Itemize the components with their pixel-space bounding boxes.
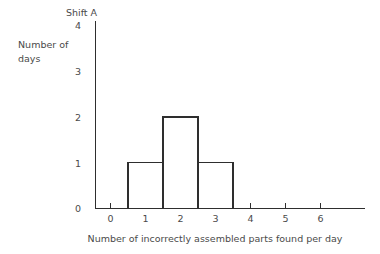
histogram-chart: Shift A Number of days 4 3 2 1 0 0 1 2 3… <box>0 0 380 254</box>
x-tick-label-4: 4 <box>247 213 253 224</box>
x-axis-label: Number of incorrectly assembled parts fo… <box>88 233 343 244</box>
x-tick-label-6: 6 <box>317 213 323 224</box>
chart-title: Shift A <box>66 7 98 18</box>
y-axis-label-line1: Number of <box>18 39 69 50</box>
histogram-bar-3 <box>198 163 233 209</box>
chart-canvas: Shift A Number of days 4 3 2 1 0 0 1 2 3… <box>0 0 380 254</box>
x-tick-label-5: 5 <box>282 213 288 224</box>
y-tick-label-2: 2 <box>75 112 81 123</box>
y-axis-label-line2: days <box>18 53 40 64</box>
x-tick-label-2: 2 <box>177 213 183 224</box>
y-tick-label-1: 1 <box>75 158 81 169</box>
x-tick-label-0: 0 <box>107 213 113 224</box>
histogram-bar-1 <box>128 163 163 209</box>
y-tick-label-4: 4 <box>75 20 81 31</box>
x-tick-label-1: 1 <box>142 213 148 224</box>
y-tick-label-0: 0 <box>75 203 81 214</box>
y-tick-label-3: 3 <box>75 66 81 77</box>
x-tick-label-3: 3 <box>212 213 218 224</box>
histogram-bar-2 <box>163 117 198 209</box>
